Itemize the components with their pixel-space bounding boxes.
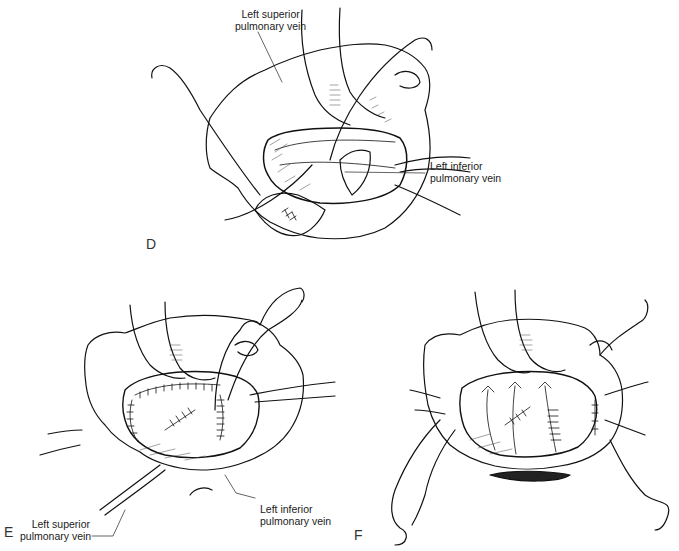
surgical-illustration [0,0,679,551]
label-d-superior-line2: pulmonary vein [235,20,306,32]
label-e-superior: Left superior pulmonary vein [20,518,90,542]
panel-letter-d: D [146,236,156,252]
panel-d-drawing [152,8,470,239]
panel-letter-e: E [4,524,13,540]
figure-caption-cutoff [0,543,679,551]
label-e-inferior: Left inferior pulmonary vein [260,503,331,527]
leader-lines [92,32,425,536]
label-e-superior-line1: Left superior [20,518,90,530]
label-d-inferior-line1: Left inferior [430,160,501,172]
label-d-inferior-line2: pulmonary vein [430,172,501,184]
panel-letter-f: F [354,527,363,543]
panel-f-drawing [392,290,669,545]
label-d-inferior: Left inferior pulmonary vein [430,160,501,184]
label-d-superior-line1: Left superior [235,8,306,20]
label-e-superior-line2: pulmonary vein [20,530,90,542]
label-d-superior: Left superior pulmonary vein [235,8,306,32]
label-e-inferior-line1: Left inferior [260,503,331,515]
label-e-inferior-line2: pulmonary vein [260,515,331,527]
panel-e-drawing [40,288,335,515]
